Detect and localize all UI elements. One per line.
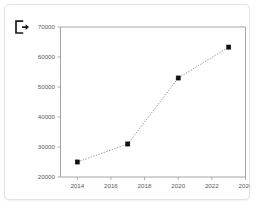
plot-frame <box>61 27 246 177</box>
data-point-marker <box>176 76 180 80</box>
data-point-marker <box>75 160 79 164</box>
ytick-label: 40000 <box>38 113 56 120</box>
ytick-label: 60000 <box>38 53 56 60</box>
export-arrow-icon[interactable] <box>14 20 31 35</box>
series-line <box>77 47 228 162</box>
xtick-label: 2022 <box>205 182 219 189</box>
xtick-label: 2024 <box>239 182 250 189</box>
ytick-label: 70000 <box>38 23 56 30</box>
ytick-label: 50000 <box>38 83 56 90</box>
data-point-marker <box>227 45 231 49</box>
xtick-label: 2014 <box>70 182 84 189</box>
line-chart: 70000 60000 50000 40000 30000 20000 <box>30 17 250 195</box>
xtick-label: 2020 <box>171 182 185 189</box>
data-point-marker <box>126 142 130 146</box>
ytick-label: 30000 <box>38 143 56 150</box>
xtick-label: 2018 <box>138 182 152 189</box>
xtick-label: 2016 <box>104 182 118 189</box>
chart-card: 70000 60000 50000 40000 30000 20000 <box>4 4 250 200</box>
ytick-label: 20000 <box>38 173 56 180</box>
series-group <box>75 45 231 164</box>
screenshot-root: 70000 60000 50000 40000 30000 20000 <box>0 0 259 213</box>
